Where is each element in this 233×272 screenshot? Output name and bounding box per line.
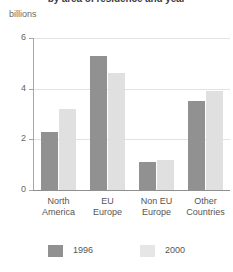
x-axis-label-eu-europe: EUEurope <box>83 196 132 218</box>
x-axis-label-other-countries: OtherCountries <box>181 196 230 218</box>
x-axis-label-line: Europe <box>132 207 181 218</box>
x-axis-label-north-america: NorthAmerica <box>34 196 83 218</box>
x-axis-label-line: North <box>34 196 83 207</box>
bar-2000-non-eu-europe <box>157 160 174 190</box>
x-axis-label-line: Europe <box>83 207 132 218</box>
legend-label-1996: 1996 <box>73 245 93 255</box>
chart-subtitle-units: billions <box>9 9 37 19</box>
y-axis-tick-mark <box>29 38 33 39</box>
plot-area <box>34 38 230 190</box>
bar-1996-eu-europe <box>90 56 107 190</box>
x-axis-line <box>29 190 230 191</box>
y-axis-tick-label: 0 <box>2 184 26 194</box>
chart-legend: 19962000 <box>0 243 233 263</box>
bar-2000-eu-europe <box>108 73 125 190</box>
bar-1996-other-countries <box>188 101 205 190</box>
x-axis-label-line: Countries <box>181 207 230 218</box>
legend-label-2000: 2000 <box>165 245 185 255</box>
x-axis-label-non-eu-europe: Non EUEurope <box>132 196 181 218</box>
bar-chart-figure: by area of residence and year billions 0… <box>0 0 233 272</box>
y-axis-tick-label: 4 <box>2 83 26 93</box>
x-axis-label-line: America <box>34 207 83 218</box>
bar-1996-non-eu-europe <box>139 162 156 190</box>
y-axis-tick-label: 2 <box>2 133 26 143</box>
x-axis-label-line: EU <box>83 196 132 207</box>
bar-1996-north-america <box>41 132 58 190</box>
y-axis-tick-label: 6 <box>2 32 26 42</box>
bar-2000-north-america <box>59 109 76 190</box>
x-axis-label-line: Non EU <box>132 196 181 207</box>
x-axis-label-line: Other <box>181 196 230 207</box>
legend-swatch-1996 <box>48 245 63 257</box>
y-axis-tick-mark <box>29 190 33 191</box>
y-axis-tick-mark <box>29 89 33 90</box>
bar-2000-other-countries <box>206 91 223 190</box>
legend-swatch-2000 <box>140 245 155 257</box>
chart-title: by area of residence and year <box>0 0 233 4</box>
y-axis-tick-mark <box>29 139 33 140</box>
